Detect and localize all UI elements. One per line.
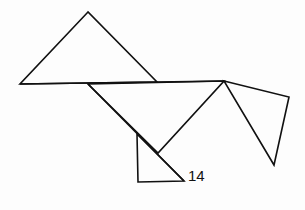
- diagonal: [88, 84, 184, 181]
- right-triangle: [224, 81, 289, 165]
- figure-number-label: 14: [188, 168, 205, 183]
- tangram-figure: 14: [0, 0, 305, 210]
- figure-drawing: [0, 0, 305, 210]
- middle-triangle: [88, 81, 224, 153]
- top-triangle: [20, 12, 157, 84]
